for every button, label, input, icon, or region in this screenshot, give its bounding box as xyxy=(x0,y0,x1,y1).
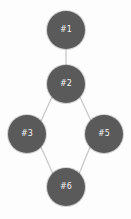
graph-node-label: #2 xyxy=(60,80,72,88)
graph-node-6[interactable]: #6 xyxy=(47,168,85,206)
graph-node-label: #5 xyxy=(98,130,110,138)
edge-n5-n6 xyxy=(79,147,90,174)
graph-canvas: #1 #2 #3 #5 #6 xyxy=(0,0,131,219)
edge-n3-n6 xyxy=(41,147,53,174)
graph-node-5[interactable]: #5 xyxy=(85,115,123,153)
graph-node-label: #3 xyxy=(21,130,33,138)
graph-node-3[interactable]: #3 xyxy=(8,115,46,153)
graph-node-label: #6 xyxy=(60,183,72,191)
graph-node-2[interactable]: #2 xyxy=(47,65,85,103)
edge-n2-n5 xyxy=(80,97,91,121)
graph-node-1[interactable]: #1 xyxy=(47,11,85,49)
edge-n2-n3 xyxy=(41,97,52,121)
graph-node-label: #1 xyxy=(60,26,72,34)
